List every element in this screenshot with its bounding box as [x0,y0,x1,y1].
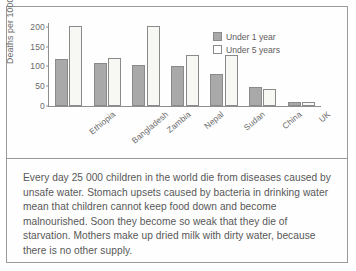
x-tick-label: Zambia [165,109,193,135]
legend-swatch-icon-under-5-years [213,45,222,54]
bar [147,26,160,106]
bar [108,58,121,106]
x-tick-label: Sudan [242,109,267,132]
figure-container: Deaths per 1000 live births 050100150200… [6,6,348,263]
bar [225,55,238,106]
bar [302,102,315,106]
bar-group [132,23,160,106]
legend-label-under-1-year: Under 1 year [226,32,276,42]
chart-legend: Under 1 year Under 5 years [213,31,280,57]
legend-item-under-1-year: Under 1 year [213,31,280,42]
y-tick-mark [46,66,49,67]
bar [288,102,301,106]
bar [171,66,184,106]
bar-group [288,23,316,106]
y-tick-mark [46,86,49,87]
bar [94,63,107,106]
legend-item-under-5-years: Under 5 years [213,44,280,55]
x-tick-label: UK [316,109,331,124]
bar [249,87,262,106]
bar [210,74,223,106]
bar [186,55,199,106]
x-tick-label: Nepal [202,109,225,131]
bar [69,26,82,106]
caption-panel: Every day 25 000 children in the world d… [7,159,347,263]
bar-group [94,23,122,106]
caption-paragraph: Every day 25 000 children in the world d… [23,171,333,259]
bar [263,89,276,106]
chart-panel: Deaths per 1000 live births 050100150200… [7,7,347,158]
plot-area: 050100150200 [49,23,321,106]
bar-group [171,23,199,106]
y-axis-title: Deaths per 1000 live births [5,0,15,64]
x-tick-label: Ethiopia [88,109,118,136]
y-tick-mark [46,106,49,107]
bar [55,59,68,106]
legend-label-under-5-years: Under 5 years [226,45,280,55]
caption-text: Every day 25 000 children in the world d… [23,171,333,259]
bar-group [55,23,83,106]
legend-swatch-icon-under-1-year [213,32,222,41]
y-tick-mark [46,46,49,47]
bar [132,65,145,107]
x-axis-line [48,106,321,107]
y-tick-mark [46,26,49,27]
x-tick-label: China [280,109,303,131]
